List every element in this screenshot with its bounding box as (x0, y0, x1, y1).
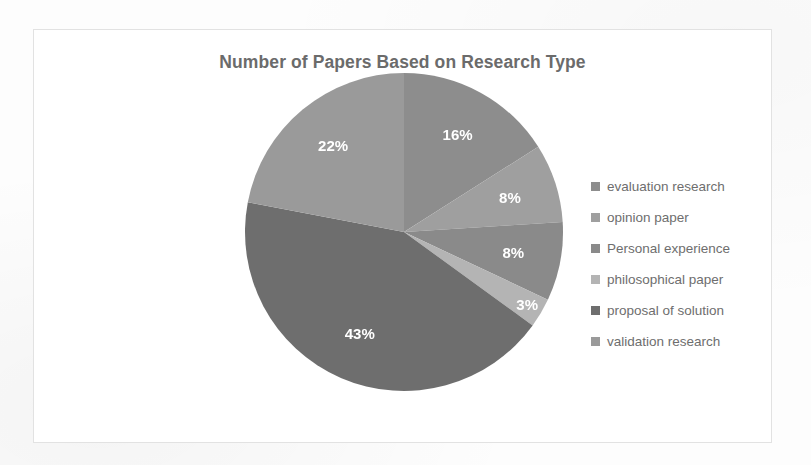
pie-slice-label: 3% (516, 296, 538, 313)
chart-title: Number of Papers Based on Research Type (34, 52, 771, 73)
legend-item-label: Personal experience (607, 242, 730, 256)
legend-item[interactable]: validation research (591, 326, 771, 357)
legend-item-label: validation research (607, 335, 720, 349)
legend-color-swatch-icon (591, 337, 600, 346)
legend-color-swatch-icon (591, 306, 600, 315)
pie-slice-label: 8% (502, 244, 524, 261)
legend-item[interactable]: philosophical paper (591, 264, 771, 295)
legend-item[interactable]: proposal of solution (591, 295, 771, 326)
legend-color-swatch-icon (591, 275, 600, 284)
legend-color-swatch-icon (591, 213, 600, 222)
legend-item[interactable]: Personal experience (591, 233, 771, 264)
pie-chart-svg: 16%8%8%3%43%22% (244, 72, 564, 392)
chart-legend: evaluation researchopinion paperPersonal… (591, 171, 771, 357)
pie-slice-label: 43% (345, 325, 375, 342)
legend-item[interactable]: opinion paper (591, 202, 771, 233)
legend-color-swatch-icon (591, 244, 600, 253)
legend-item-label: proposal of solution (607, 304, 724, 318)
legend-item[interactable]: evaluation research (591, 171, 771, 202)
pie-slice-label: 22% (318, 137, 348, 154)
pie-chart: 16%8%8%3%43%22% (244, 72, 564, 392)
pie-slice-label: 16% (443, 126, 473, 143)
chart-frame: Number of Papers Based on Research Type … (33, 29, 772, 443)
legend-item-label: evaluation research (607, 180, 725, 194)
pie-slice-label: 8% (499, 189, 521, 206)
legend-color-swatch-icon (591, 182, 600, 191)
legend-item-label: philosophical paper (607, 273, 723, 287)
legend-item-label: opinion paper (607, 211, 689, 225)
pie-slice-group (245, 73, 563, 391)
